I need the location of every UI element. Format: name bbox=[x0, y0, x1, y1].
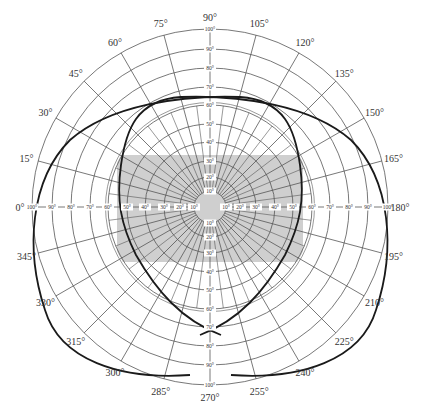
azimuth-label-240: 240° bbox=[296, 367, 315, 378]
azimuth-label-45: 45° bbox=[69, 68, 83, 79]
ring-label-left-80: 80° bbox=[67, 204, 75, 210]
azimuth-label-105: 105° bbox=[250, 18, 269, 29]
ring-label-left-30: 30° bbox=[160, 204, 168, 210]
ring-label-bottom-70: 70° bbox=[206, 324, 214, 330]
ring-label-left-10: 10° bbox=[190, 204, 198, 210]
ring-label-right-90: 90° bbox=[364, 204, 372, 210]
azimuth-label-285: 285° bbox=[151, 386, 170, 397]
ring-label-left-90: 90° bbox=[48, 204, 56, 210]
ring-label-right-60: 60° bbox=[308, 204, 316, 210]
azimuth-label-345: 345° bbox=[17, 251, 36, 262]
polar-chart: 10°10°10°10°20°20°20°20°30°30°30°30°40°4… bbox=[0, 0, 421, 413]
ring-label-bottom-40: 40° bbox=[206, 269, 214, 275]
azimuth-label-150: 150° bbox=[365, 107, 384, 118]
ring-label-bottom-10: 10° bbox=[206, 220, 214, 226]
ring-label-bottom-50: 50° bbox=[206, 287, 214, 293]
ring-label-left-40: 40° bbox=[141, 204, 149, 210]
azimuth-label-270: 270° bbox=[201, 392, 220, 403]
ring-label-top-100: 100° bbox=[205, 26, 215, 32]
ring-label-right-80: 80° bbox=[345, 204, 353, 210]
azimuth-label-15: 15° bbox=[19, 153, 33, 164]
azimuth-label-225: 225° bbox=[335, 336, 354, 347]
ring-label-top-40: 40° bbox=[206, 139, 214, 145]
ring-label-top-30: 30° bbox=[206, 158, 214, 164]
azimuth-label-60: 60° bbox=[108, 37, 122, 48]
ring-label-top-10: 10° bbox=[206, 188, 214, 194]
azimuth-label-90: 90° bbox=[203, 12, 217, 23]
ring-label-bottom-90: 90° bbox=[206, 362, 214, 368]
ring-label-top-50: 50° bbox=[206, 121, 214, 127]
ring-label-left-20: 20° bbox=[176, 204, 184, 210]
ring-label-top-90: 90° bbox=[206, 46, 214, 52]
ring-label-right-40: 40° bbox=[271, 204, 279, 210]
ring-label-left-50: 50° bbox=[123, 204, 131, 210]
ring-label-bottom-100: 100° bbox=[205, 382, 215, 388]
ring-label-top-20: 20° bbox=[206, 174, 214, 180]
azimuth-label-330: 330° bbox=[36, 297, 55, 308]
azimuth-label-210: 210° bbox=[365, 297, 384, 308]
azimuth-label-75: 75° bbox=[154, 18, 168, 29]
azimuth-label-0: 0° bbox=[16, 202, 25, 213]
ring-label-right-20: 20° bbox=[236, 204, 244, 210]
ring-label-top-60: 60° bbox=[206, 102, 214, 108]
azimuth-label-120: 120° bbox=[296, 37, 315, 48]
ring-label-left-100: 100° bbox=[27, 204, 37, 210]
azimuth-label-315: 315° bbox=[66, 336, 85, 347]
ring-label-top-70: 70° bbox=[206, 84, 214, 90]
visual-field-diagram: 10°10°10°10°20°20°20°20°30°30°30°30°40°4… bbox=[0, 0, 421, 413]
azimuth-label-180: 180° bbox=[391, 202, 410, 213]
ring-label-bottom-30: 30° bbox=[206, 250, 214, 256]
azimuth-label-165: 165° bbox=[384, 153, 403, 164]
ring-label-left-70: 70° bbox=[86, 204, 94, 210]
ring-label-top-80: 80° bbox=[206, 65, 214, 71]
ring-label-left-60: 60° bbox=[104, 204, 112, 210]
ring-label-right-70: 70° bbox=[326, 204, 334, 210]
azimuth-label-300: 300° bbox=[106, 367, 125, 378]
azimuth-label-255: 255° bbox=[250, 386, 269, 397]
azimuth-label-30: 30° bbox=[38, 107, 52, 118]
ring-label-bottom-20: 20° bbox=[206, 234, 214, 240]
ring-label-right-50: 50° bbox=[289, 204, 297, 210]
ring-label-right-30: 30° bbox=[252, 204, 260, 210]
ring-label-right-10: 10° bbox=[222, 204, 230, 210]
ring-label-bottom-80: 80° bbox=[206, 343, 214, 349]
azimuth-label-135: 135° bbox=[335, 68, 354, 79]
ring-label-bottom-60: 60° bbox=[206, 306, 214, 312]
azimuth-label-195: 195° bbox=[384, 251, 403, 262]
